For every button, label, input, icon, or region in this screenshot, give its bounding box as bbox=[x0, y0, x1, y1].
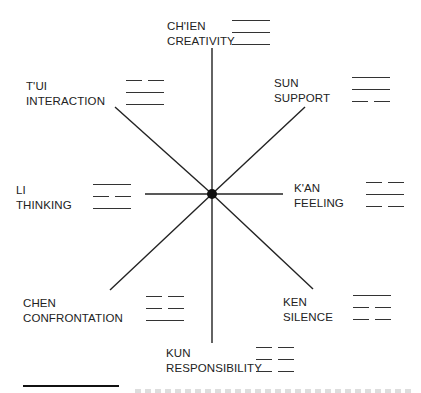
trigram-meaning: SUPPORT bbox=[274, 91, 330, 106]
footnote-rule bbox=[23, 385, 119, 387]
trigram-line-broken bbox=[146, 291, 184, 303]
trigram-line-broken bbox=[353, 314, 391, 326]
label-sun: SUN SUPPORT bbox=[274, 76, 330, 106]
trigram-meaning: THINKING bbox=[16, 198, 72, 213]
trigram-kun bbox=[256, 342, 294, 378]
label-chen: CHEN CONFRONTATION bbox=[23, 296, 123, 326]
trigram-line-broken bbox=[146, 303, 184, 315]
trigram-line-broken bbox=[366, 201, 404, 213]
trigram-meaning: SILENCE bbox=[283, 310, 333, 325]
trigram-line-solid bbox=[93, 179, 131, 191]
trigram-line-broken bbox=[353, 302, 391, 314]
trigram-chien bbox=[232, 15, 270, 51]
trigram-meaning: RESPONSIBILITY bbox=[166, 361, 262, 376]
trigram-line-solid bbox=[232, 39, 270, 51]
label-ken: KEN SILENCE bbox=[283, 295, 333, 325]
trigram-name: CHEN bbox=[23, 296, 123, 311]
trigram-line-solid bbox=[366, 189, 404, 201]
label-tui: T'UI INTERACTION bbox=[26, 79, 105, 109]
trigram-li bbox=[93, 179, 131, 215]
trigram-name: KUN bbox=[166, 346, 262, 361]
trigram-line-broken bbox=[352, 96, 390, 108]
trigram-line-solid bbox=[353, 290, 391, 302]
trigram-line-solid bbox=[126, 87, 164, 99]
trigram-line-broken bbox=[256, 366, 294, 378]
trigram-meaning: CONFRONTATION bbox=[23, 311, 123, 326]
trigram-line-solid bbox=[352, 84, 390, 96]
trigram-kan bbox=[366, 177, 404, 213]
cropped-footnote-text bbox=[135, 389, 415, 393]
trigram-sun bbox=[352, 72, 390, 108]
trigram-line-solid bbox=[126, 99, 164, 111]
spoke-ne bbox=[212, 107, 305, 194]
trigram-line-broken bbox=[126, 75, 164, 87]
trigram-meaning: CREATIVITY bbox=[167, 34, 235, 49]
trigram-name: SUN bbox=[274, 76, 330, 91]
trigram-line-solid bbox=[352, 72, 390, 84]
trigram-meaning: INTERACTION bbox=[26, 94, 105, 109]
trigram-name: CH'IEN bbox=[167, 19, 235, 34]
trigram-line-broken bbox=[93, 191, 131, 203]
label-kan: K'AN FEELING bbox=[294, 181, 344, 211]
trigram-line-solid bbox=[146, 315, 184, 327]
trigram-line-solid bbox=[232, 27, 270, 39]
trigram-line-broken bbox=[256, 342, 294, 354]
trigram-line-solid bbox=[93, 203, 131, 215]
label-li: LI THINKING bbox=[16, 183, 72, 213]
trigram-meaning: FEELING bbox=[294, 196, 344, 211]
trigram-name: KEN bbox=[283, 295, 333, 310]
trigram-name: K'AN bbox=[294, 181, 344, 196]
trigram-line-broken bbox=[366, 177, 404, 189]
label-chien: CH'IEN CREATIVITY bbox=[167, 19, 235, 49]
trigram-tui bbox=[126, 75, 164, 111]
trigram-line-solid bbox=[232, 15, 270, 27]
trigram-name: LI bbox=[16, 183, 72, 198]
trigram-chen bbox=[146, 291, 184, 327]
label-kun: KUN RESPONSIBILITY bbox=[166, 346, 262, 376]
trigram-line-broken bbox=[256, 354, 294, 366]
trigram-name: T'UI bbox=[26, 79, 105, 94]
trigram-ken bbox=[353, 290, 391, 326]
center-dot bbox=[207, 189, 217, 199]
